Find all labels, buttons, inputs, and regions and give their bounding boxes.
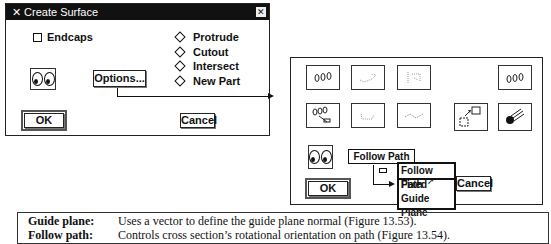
- eye-icon: [321, 150, 332, 164]
- arrow-head-icon: [389, 181, 395, 187]
- definition-guide-plane: Uses a vector to define the guide plane …: [118, 214, 417, 229]
- term-follow-path: Follow path:: [28, 228, 93, 243]
- radio-intersect[interactable]: Intersect: [176, 59, 240, 74]
- connector-line: [117, 96, 270, 97]
- orientation-select-value: Follow Path: [353, 151, 409, 162]
- eyes-button[interactable]: [30, 68, 56, 90]
- dialog-title: Create Surface: [24, 6, 98, 18]
- pegs-icon[interactable]: [306, 65, 340, 90]
- pegs-arrow-icon[interactable]: [306, 103, 340, 128]
- connector-line: [373, 165, 374, 184]
- ok-button[interactable]: OK: [308, 181, 348, 196]
- connector-line: [373, 184, 390, 185]
- eye-icon: [44, 72, 55, 86]
- cancel-button[interactable]: Cancel: [456, 176, 491, 191]
- dialog-title-bar: ✕ Create Surface: [6, 4, 269, 20]
- radio-label: Cutout: [193, 46, 228, 58]
- curve-b-icon[interactable]: [397, 65, 431, 90]
- endcaps-label: Endcaps: [47, 31, 93, 43]
- radio-diamond-icon: [174, 75, 185, 86]
- operation-radio-group: Protrude Cutout Intersect New Part: [176, 30, 240, 88]
- checkbox-icon: [33, 33, 42, 42]
- description-box: Guide plane: Uses a vector to define the…: [17, 212, 549, 244]
- arrow-head-icon: [268, 93, 274, 99]
- radio-diamond-icon: [174, 46, 185, 57]
- curve-a-icon[interactable]: [351, 65, 385, 90]
- radio-cutout[interactable]: Cutout: [176, 45, 240, 60]
- option-menu-indicator-icon: [379, 168, 387, 173]
- move-box-icon[interactable]: [454, 103, 488, 131]
- eye-icon: [309, 150, 320, 164]
- radio-new-part[interactable]: New Part: [176, 74, 240, 89]
- close-button[interactable]: ✕: [256, 7, 266, 17]
- comet-icon[interactable]: [498, 103, 532, 131]
- options-button[interactable]: Options...: [93, 70, 146, 87]
- radio-label: New Part: [193, 75, 240, 87]
- mouse-pointer-icon: ➚: [427, 176, 435, 186]
- ok-button[interactable]: OK: [24, 113, 64, 128]
- cancel-button[interactable]: Cancel: [180, 113, 215, 128]
- pegs-alt-icon[interactable]: [498, 65, 532, 90]
- endcaps-checkbox[interactable]: Endcaps: [33, 31, 93, 43]
- menu-item-guide-plane[interactable]: Guide Plane: [399, 192, 454, 206]
- orientation-dropdown-menu: Follow Path Fixed Guide Plane: [397, 162, 456, 210]
- eye-icon: [32, 72, 43, 86]
- create-surface-dialog: ✕ Create Surface ✕ Endcaps Protrude Cuto…: [5, 3, 270, 136]
- radio-diamond-icon: [174, 61, 185, 72]
- close-icon: ✕: [257, 7, 265, 17]
- definition-follow-path: Controls cross section’s rotational orie…: [118, 228, 450, 243]
- term-guide-plane: Guide plane:: [28, 214, 94, 229]
- radio-protrude[interactable]: Protrude: [176, 30, 240, 45]
- radio-label: Intersect: [193, 60, 239, 72]
- radio-label: Protrude: [193, 31, 239, 43]
- curve-c-icon[interactable]: [351, 103, 385, 128]
- curve-d-icon[interactable]: [397, 103, 431, 128]
- x-logo-icon: ✕: [12, 6, 24, 18]
- eyes-button[interactable]: [308, 145, 333, 169]
- radio-diamond-icon: [174, 32, 185, 43]
